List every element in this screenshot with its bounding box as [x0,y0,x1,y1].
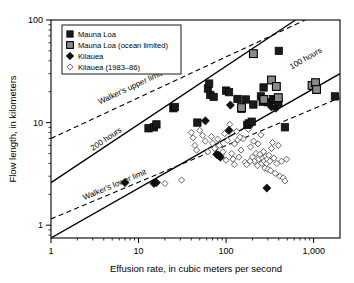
y-tick-label: 1 [38,220,43,230]
y-tick-label: 10 [33,118,43,128]
data-point-mauna-loa-ocean-limited [274,94,282,102]
legend-label: Kilauea [78,52,104,61]
data-point-mauna-loa [225,88,232,95]
data-point-mauna-loa [281,124,288,131]
data-point-mauna-loa-ocean-limited [260,96,268,104]
data-point-mauna-loa [248,118,255,125]
x-tick-label: 100 [219,246,234,256]
legend-label: Kilauea (1983–86) [78,63,141,72]
data-point-mauna-loa [205,80,212,87]
legend-marker [67,31,73,37]
x-axis-title: Effusion rate, in cubic meters per secon… [110,263,282,274]
legend-marker [67,42,74,49]
y-axis-title: Flow length, in kilometers [7,75,18,182]
data-point-mauna-loa [242,96,249,103]
data-point-mauna-loa-ocean-limited [238,104,246,112]
data-point-mauna-loa [275,47,282,54]
data-point-mauna-loa [250,101,257,108]
scatter-plot: Walker's upper limit200 hours100 hoursWa… [0,0,354,283]
data-point-mauna-loa [260,84,267,91]
data-point-mauna-loa [210,93,217,100]
legend-label: Mauna Loa [78,30,117,39]
x-tick-label: 1 [48,246,53,256]
data-point-mauna-loa [153,121,160,128]
x-tick-label: 1,000 [302,246,325,256]
data-point-mauna-loa-ocean-limited [313,86,321,94]
chart-figure: Walker's upper limit200 hours100 hoursWa… [0,0,354,283]
legend: Mauna LoaMauna Loa (ocean limited)Kilaue… [62,25,181,74]
data-point-mauna-loa [234,95,241,102]
y-tick-label: 100 [28,15,43,25]
data-point-mauna-loa [194,119,201,126]
legend-label: Mauna Loa (ocean limited) [78,41,168,50]
data-point-mauna-loa [331,93,338,100]
x-tick-label: 10 [134,246,144,256]
data-point-mauna-loa [171,103,178,110]
data-point-mauna-loa-ocean-limited [249,50,257,58]
data-point-mauna-loa-ocean-limited [272,83,280,91]
